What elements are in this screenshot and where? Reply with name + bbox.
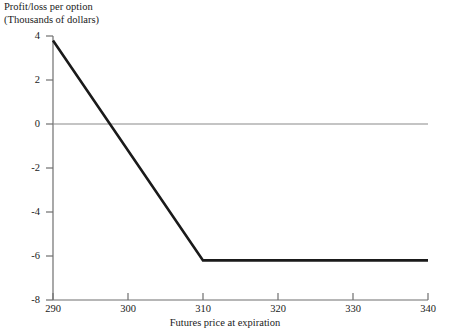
- chart-screenshot: Profit/loss per option (Thousands of dol…: [0, 0, 450, 334]
- plot-area: [0, 0, 450, 334]
- y-axis-ticks: [46, 36, 53, 300]
- xtick-label-320: 320: [258, 303, 298, 314]
- xtick-label-290: 290: [33, 303, 73, 314]
- xtick-label-310: 310: [183, 303, 223, 314]
- ytick-label-neg6: -6: [14, 250, 40, 261]
- ytick-label-neg4: -4: [14, 206, 40, 217]
- x-axis-title: Futures price at expiration: [0, 317, 450, 328]
- ytick-label-4: 4: [14, 30, 40, 41]
- ytick-label-0: 0: [14, 118, 40, 129]
- xtick-label-330: 330: [333, 303, 373, 314]
- x-axis-ticks: [53, 293, 428, 300]
- ytick-label-neg2: -2: [14, 162, 40, 173]
- xtick-label-300: 300: [108, 303, 148, 314]
- ytick-label-2: 2: [14, 74, 40, 85]
- payoff-line: [53, 40, 428, 260]
- xtick-label-340: 340: [408, 303, 448, 314]
